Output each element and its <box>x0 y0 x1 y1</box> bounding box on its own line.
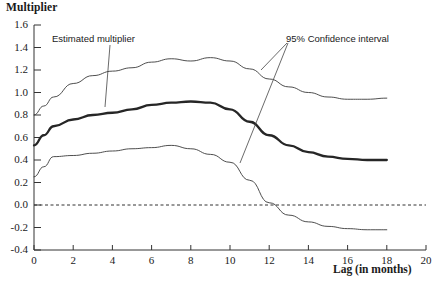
estimated-multiplier-leader <box>105 45 110 107</box>
y-tick-label: 1.2 <box>0 63 28 75</box>
x-tick-label: 4 <box>102 254 122 266</box>
confidence-interval-annotation: 95% Confidence interval <box>286 33 389 44</box>
confidence-interval-leader-upper <box>261 43 287 70</box>
annotation-leader-lines <box>105 43 288 163</box>
y-tick-label: -0.2 <box>0 221 28 233</box>
x-tick-label: 0 <box>24 254 44 266</box>
y-axis-title: Multiplier <box>6 1 57 13</box>
x-tick-label: 6 <box>142 254 162 266</box>
confidence-bound-line <box>34 58 387 115</box>
x-tick-label: 18 <box>377 254 397 266</box>
estimated-multiplier-annotation: Estimated multiplier <box>52 33 135 44</box>
x-tick-label: 20 <box>416 254 436 266</box>
confidence-interval-leader-lower <box>240 43 288 163</box>
y-tick-label: 0.6 <box>0 131 28 143</box>
multiplier-chart: Multiplier Lag (in months) 1.61.41.21.00… <box>0 0 437 289</box>
y-tick-label: 0.0 <box>0 198 28 210</box>
y-tick-label: 0.4 <box>0 153 28 165</box>
x-tick-label: 12 <box>259 254 279 266</box>
axes <box>34 25 426 250</box>
estimated-multiplier-line <box>34 102 387 161</box>
series-lines <box>34 58 387 230</box>
y-tick-label: 1.0 <box>0 86 28 98</box>
y-tick-label: 1.4 <box>0 41 28 53</box>
x-tick-label: 10 <box>220 254 240 266</box>
x-tick-label: 2 <box>63 254 83 266</box>
y-tick-label: 0.2 <box>0 176 28 188</box>
x-tick-label: 14 <box>298 254 318 266</box>
y-tick-label: 1.6 <box>0 18 28 30</box>
x-tick-label: 8 <box>181 254 201 266</box>
x-tick-label: 16 <box>338 254 358 266</box>
y-tick-label: 0.8 <box>0 108 28 120</box>
